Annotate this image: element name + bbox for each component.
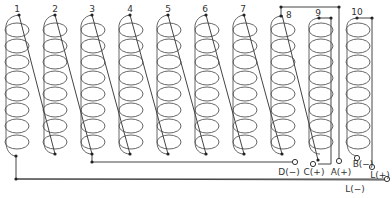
- coil-label-8: 8: [286, 10, 292, 20]
- terminal-c-plus: [310, 161, 315, 166]
- coil-labels: 1 2 3 4 5 6 7 8 9 10: [14, 4, 363, 20]
- label-c-plus: C(+): [304, 167, 325, 177]
- coil-label-1: 1: [14, 4, 20, 14]
- coil-6: [195, 15, 219, 154]
- coil-label-4: 4: [127, 4, 133, 14]
- coil-1: [5, 15, 29, 156]
- coil-9: [309, 18, 333, 154]
- terminal-a-plus: [336, 158, 341, 163]
- coil-2: [43, 15, 67, 154]
- coil-7: [233, 15, 257, 154]
- coil-label-5: 5: [165, 4, 171, 14]
- label-l-plus: L(+): [370, 170, 390, 180]
- terminal-d-minus: [292, 159, 297, 164]
- coil-label-3: 3: [89, 4, 95, 14]
- coil-label-7: 7: [240, 4, 246, 14]
- coil-label-2: 2: [52, 4, 58, 14]
- coil-3: [81, 15, 105, 154]
- label-l-minus: L(−): [345, 184, 365, 194]
- coil-4: [119, 15, 143, 154]
- coil-10: [346, 18, 370, 156]
- coil-wiring-diagram: 1 2 3 4 5 6 7 8 9 10 D(−) C(+) A(+) B(−)…: [0, 0, 392, 198]
- coil-label-10: 10: [351, 7, 363, 17]
- coil-label-6: 6: [202, 4, 208, 14]
- label-d-minus: D(−): [278, 167, 300, 177]
- label-a-plus: A(+): [331, 167, 352, 177]
- coil-5: [157, 15, 181, 154]
- coil-label-9: 9: [315, 8, 321, 18]
- label-b-minus: B(−): [353, 159, 374, 169]
- coil-8: [271, 16, 295, 154]
